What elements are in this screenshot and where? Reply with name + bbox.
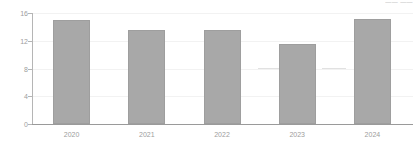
bar[interactable] [204,30,241,124]
y-tick-label: 0 [4,121,28,128]
y-tick-label: 16 [4,10,28,17]
x-tick-label: 2023 [289,131,305,138]
stray-mark-left [258,68,280,69]
bar[interactable] [354,19,391,124]
bar[interactable] [128,30,165,124]
y-tick-label: 4 [4,93,28,100]
x-tick-label: 2021 [139,131,155,138]
y-tick-mark [28,69,32,70]
y-axis-line [32,13,33,124]
y-tick-mark [28,41,32,42]
bar[interactable] [53,20,90,124]
y-tick-mark [28,96,32,97]
bar[interactable] [279,44,316,124]
chart-screenshot: —— —— 0481216 20202021202220232024 [0,0,415,148]
x-axis-baseline [32,124,413,125]
y-tick-mark [28,13,32,14]
x-tick-label: 2020 [64,131,80,138]
gridline [32,13,413,14]
y-tick-mark [28,124,32,125]
stray-mark-right [322,68,346,69]
x-tick-label: 2022 [214,131,230,138]
x-tick-label: 2024 [365,131,381,138]
bar-chart-plot-area: 0481216 20202021202220232024 [0,0,415,148]
y-tick-label: 8 [4,65,28,72]
y-tick-label: 12 [4,37,28,44]
